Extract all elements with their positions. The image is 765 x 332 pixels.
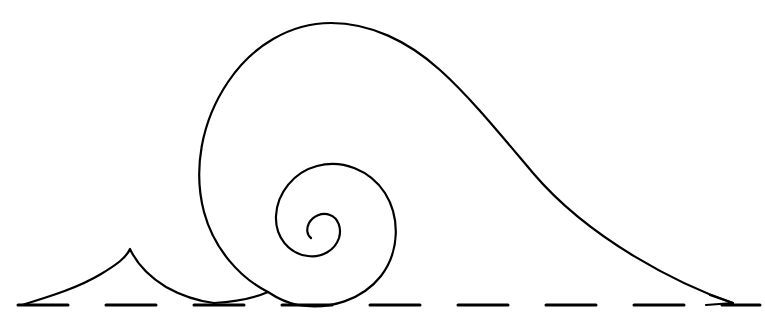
wave-drawing	[0, 0, 765, 332]
artwork-canvas	[0, 0, 765, 332]
canvas-background	[0, 0, 765, 332]
